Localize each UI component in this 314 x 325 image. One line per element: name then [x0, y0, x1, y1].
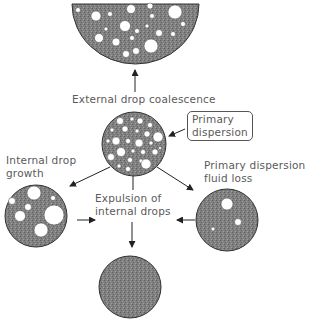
- label-primary-dispersion: Primary dispersion: [187, 111, 253, 141]
- label-primary-line1: Primary: [192, 113, 248, 126]
- internal-growth-circle: [5, 185, 67, 247]
- label-internal-line1: Internal drop: [6, 154, 76, 167]
- label-expulsion-line1: Expulsion of: [95, 192, 171, 205]
- label-fluid-line2: fluid loss: [204, 172, 305, 185]
- label-internal-line2: growth: [6, 167, 76, 180]
- label-expulsion: Expulsion of internal drops: [95, 192, 171, 218]
- label-external-coalescence: External drop coalescence: [72, 93, 216, 106]
- label-fluid-loss: Primary dispersion fluid loss: [204, 159, 305, 185]
- label-primary-line2: dispersion: [192, 126, 248, 139]
- final-state-circle: [99, 256, 161, 318]
- coalesced-halfdisk: [72, 3, 199, 64]
- primary-dispersion-circle: [102, 112, 166, 176]
- label-fluid-line1: Primary dispersion: [204, 159, 305, 172]
- label-expulsion-line2: internal drops: [95, 205, 171, 218]
- arrow-primary-label: [169, 129, 185, 136]
- label-internal-growth: Internal drop growth: [6, 154, 76, 180]
- arrow-to-fluid-loss: [157, 167, 193, 190]
- fluid-loss-circle: [196, 189, 258, 251]
